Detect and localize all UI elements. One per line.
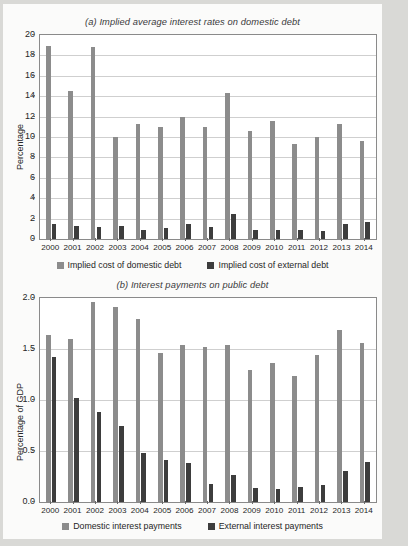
bar-external bbox=[209, 484, 214, 502]
bar-external bbox=[321, 485, 326, 502]
x-tick-label: 2014 bbox=[355, 506, 373, 515]
bar-external bbox=[209, 227, 214, 239]
bar-external bbox=[141, 230, 146, 239]
chart-b-legend: Domestic interest payments External inte… bbox=[3, 521, 382, 531]
x-tick-label: 2012 bbox=[310, 243, 328, 252]
x-tick-label: 2012 bbox=[310, 506, 328, 515]
x-tick-mark bbox=[117, 501, 118, 504]
x-tick-label: 2014 bbox=[355, 243, 373, 252]
bar-domestic bbox=[360, 343, 365, 502]
x-tick-label: 2002 bbox=[86, 506, 104, 515]
x-tick-mark bbox=[95, 501, 96, 504]
legend-swatch-domestic-icon bbox=[62, 523, 69, 530]
x-tick-mark bbox=[50, 238, 51, 241]
x-tick-label: 2000 bbox=[41, 506, 59, 515]
bar-external bbox=[186, 224, 191, 239]
legend-label-domestic: Implied cost of domestic debt bbox=[68, 260, 182, 270]
bar-external bbox=[298, 230, 303, 239]
bar-domestic bbox=[248, 370, 253, 502]
x-tick-mark bbox=[252, 501, 253, 504]
bar-external bbox=[231, 214, 236, 240]
x-tick-mark bbox=[140, 238, 141, 241]
legend-label-external: External interest payments bbox=[219, 521, 323, 531]
x-tick-label: 2003 bbox=[108, 506, 126, 515]
bar-external bbox=[343, 224, 348, 239]
legend-swatch-external-icon bbox=[208, 523, 215, 530]
x-tick-label: 2010 bbox=[265, 243, 283, 252]
x-tick-mark bbox=[297, 501, 298, 504]
chart-a-legend: Implied cost of domestic debt Implied co… bbox=[3, 260, 382, 270]
x-tick-label: 2013 bbox=[332, 506, 350, 515]
x-tick-label: 2003 bbox=[108, 243, 126, 252]
bar-domestic bbox=[203, 127, 208, 239]
bar-external bbox=[119, 426, 124, 503]
y-tick-mark bbox=[32, 218, 35, 219]
x-tick-label: 2001 bbox=[64, 506, 82, 515]
chart-a-plot-area bbox=[39, 34, 377, 240]
x-tick-mark bbox=[207, 501, 208, 504]
x-tick-mark bbox=[207, 238, 208, 241]
bar-external bbox=[164, 228, 169, 239]
chart-b-title: (b) Interest payments on public debt bbox=[3, 280, 382, 290]
x-tick-label: 2013 bbox=[332, 243, 350, 252]
y-tick-mark bbox=[32, 297, 35, 298]
x-tick-label: 2006 bbox=[176, 506, 194, 515]
y-tick-mark bbox=[32, 197, 35, 198]
x-tick-label: 2006 bbox=[176, 243, 194, 252]
chart-b-plot-area bbox=[39, 297, 377, 503]
x-tick-mark bbox=[297, 238, 298, 241]
legend-item-domestic: Implied cost of domestic debt bbox=[57, 260, 182, 270]
bar-external bbox=[276, 489, 281, 502]
x-tick-mark bbox=[229, 501, 230, 504]
bar-domestic bbox=[180, 117, 185, 239]
legend-swatch-domestic-icon bbox=[57, 262, 64, 269]
x-tick-label: 2010 bbox=[265, 506, 283, 515]
y-tick-mark bbox=[32, 450, 35, 451]
bar-external bbox=[186, 463, 191, 502]
bar-external bbox=[276, 230, 281, 239]
x-tick-mark bbox=[117, 238, 118, 241]
x-tick-mark bbox=[319, 238, 320, 241]
bar-external bbox=[343, 471, 348, 502]
x-tick-label: 2009 bbox=[243, 506, 261, 515]
chart-b-y-tick-labels: 0.00.51.01.52.0 bbox=[3, 276, 35, 536]
bar-external bbox=[231, 475, 236, 502]
page-sheet: (a) Implied average interest rates on do… bbox=[3, 4, 382, 539]
x-tick-label: 2004 bbox=[131, 506, 149, 515]
bar-domestic bbox=[113, 137, 118, 239]
x-tick-mark bbox=[364, 501, 365, 504]
bar-domestic bbox=[225, 345, 230, 502]
x-tick-mark bbox=[73, 501, 74, 504]
bar-domestic bbox=[292, 144, 297, 239]
legend-item-domestic: Domestic interest payments bbox=[62, 521, 182, 531]
x-tick-mark bbox=[319, 501, 320, 504]
bar-domestic bbox=[292, 376, 297, 502]
y-tick-mark bbox=[32, 348, 35, 349]
x-tick-label: 2009 bbox=[243, 243, 261, 252]
bar-external bbox=[164, 460, 169, 502]
bar-domestic bbox=[270, 121, 275, 239]
x-tick-mark bbox=[95, 238, 96, 241]
bar-domestic bbox=[337, 330, 342, 502]
chart-panel-a: (a) Implied average interest rates on do… bbox=[3, 10, 382, 274]
x-tick-label: 2005 bbox=[153, 506, 171, 515]
x-tick-mark bbox=[185, 238, 186, 241]
bar-domestic bbox=[91, 47, 96, 239]
x-tick-mark bbox=[73, 238, 74, 241]
y-tick-mark bbox=[32, 177, 35, 178]
bar-domestic bbox=[113, 307, 118, 502]
legend-label-domestic: Domestic interest payments bbox=[73, 521, 182, 531]
chart-a-title: (a) Implied average interest rates on do… bbox=[3, 17, 382, 27]
x-tick-label: 2011 bbox=[288, 243, 305, 252]
bar-external bbox=[97, 412, 102, 502]
x-tick-label: 2000 bbox=[41, 243, 59, 252]
y-tick-mark bbox=[32, 156, 35, 157]
bar-external bbox=[141, 453, 146, 502]
x-tick-mark bbox=[252, 238, 253, 241]
y-tick-mark bbox=[32, 116, 35, 117]
y-tick-mark bbox=[32, 399, 35, 400]
legend-item-external: Implied cost of external debt bbox=[207, 260, 328, 270]
legend-swatch-external-icon bbox=[207, 262, 214, 269]
bar-external bbox=[119, 226, 124, 239]
x-tick-label: 2008 bbox=[220, 506, 238, 515]
